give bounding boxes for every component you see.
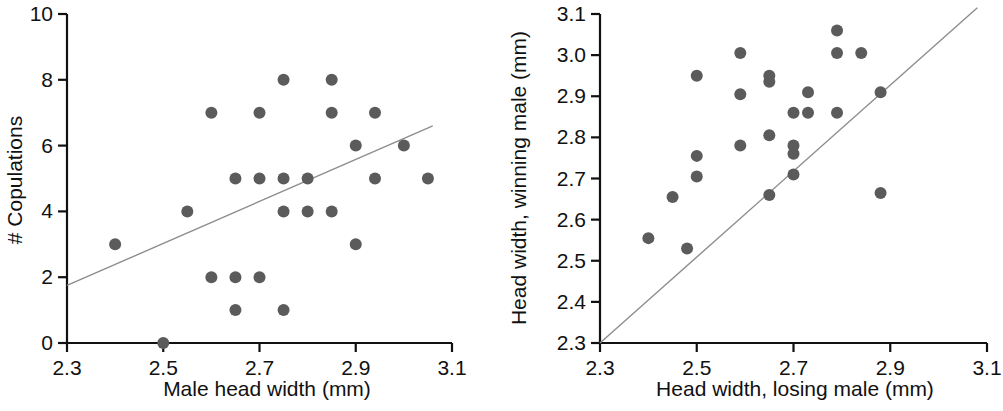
y-tick-label: 2.4 (557, 290, 587, 313)
data-point (734, 140, 746, 152)
data-point (855, 47, 867, 59)
y-tick-label: 2.5 (557, 249, 586, 272)
x-tick-label: 2.9 (341, 356, 370, 379)
data-point (831, 24, 843, 36)
data-point (157, 337, 169, 349)
data-point (875, 86, 887, 98)
scatter-panel-headwidth: 2.32.42.52.62.72.82.93.03.12.32.52.72.93… (500, 0, 1003, 411)
x-tick-label: 2.5 (682, 356, 711, 379)
right-x-axis-title: Head width, losing male (mm) (656, 377, 934, 400)
x-tick-label: 2.3 (585, 356, 614, 379)
data-point (691, 150, 703, 162)
y-tick-label: 3.0 (557, 43, 586, 66)
x-tick-label: 2.7 (245, 356, 274, 379)
right-axes (591, 14, 987, 352)
data-point (398, 140, 410, 152)
trend-line (67, 126, 433, 286)
data-point (369, 173, 381, 185)
data-point (229, 271, 241, 283)
data-point (205, 107, 217, 119)
data-point (802, 86, 814, 98)
data-point (691, 170, 703, 182)
data-point (788, 148, 800, 160)
data-point (369, 107, 381, 119)
data-point (875, 187, 887, 199)
x-tick-label: 2.3 (52, 356, 81, 379)
data-point (422, 173, 434, 185)
y-tick-label: 8 (41, 68, 53, 91)
y-tick-label: 2.6 (557, 208, 586, 231)
y-tick-label: 10 (30, 2, 53, 25)
data-point (734, 88, 746, 100)
data-point (181, 205, 193, 217)
y-tick-label: 6 (41, 134, 53, 157)
y-tick-label: 2.7 (557, 167, 586, 190)
y-tick-label: 2 (41, 265, 53, 288)
data-point (763, 189, 775, 201)
left-axes (58, 14, 452, 352)
data-point (205, 271, 217, 283)
data-point (302, 173, 314, 185)
y-tick-label: 4 (41, 199, 53, 222)
data-point (788, 168, 800, 180)
y-tick-label: 3.1 (557, 2, 586, 25)
right-data-points (642, 24, 886, 254)
left-y-axis-title: # Copulations (3, 116, 26, 244)
data-point (734, 47, 746, 59)
x-tick-label: 2.5 (149, 356, 178, 379)
data-point (691, 70, 703, 82)
data-point (802, 107, 814, 119)
data-point (831, 107, 843, 119)
y-tick-label: 2.9 (557, 84, 586, 107)
data-point (642, 232, 654, 244)
data-point (254, 107, 266, 119)
data-point (278, 304, 290, 316)
data-point (278, 205, 290, 217)
data-point (326, 107, 338, 119)
y-tick-label: 0 (41, 331, 53, 354)
data-point (254, 173, 266, 185)
left-tick-labels: 02468102.32.52.72.93.1 (30, 2, 467, 379)
scatter-panel-copulations: 02468102.32.52.72.93.1 Male head width (… (0, 0, 500, 411)
data-point (229, 173, 241, 185)
data-point (788, 107, 800, 119)
left-x-axis-title: Male head width (mm) (163, 377, 371, 400)
left-regression-line (67, 126, 433, 286)
right-plot-svg: 2.32.42.52.62.72.82.93.03.12.32.52.72.93… (500, 0, 1003, 411)
data-point (229, 304, 241, 316)
y-tick-label: 2.3 (557, 331, 586, 354)
data-point (350, 140, 362, 152)
data-point (763, 129, 775, 141)
x-tick-label: 3.1 (972, 356, 1001, 379)
figure-container: 02468102.32.52.72.93.1 Male head width (… (0, 0, 1003, 411)
data-point (350, 238, 362, 250)
data-point (278, 74, 290, 86)
data-point (763, 76, 775, 88)
data-point (681, 242, 693, 254)
data-point (326, 74, 338, 86)
data-point (667, 191, 679, 203)
x-tick-label: 2.7 (779, 356, 808, 379)
data-point (254, 271, 266, 283)
left-plot-svg: 02468102.32.52.72.93.1 Male head width (… (0, 0, 500, 411)
x-tick-label: 3.1 (437, 356, 466, 379)
data-point (326, 205, 338, 217)
left-data-points (109, 74, 434, 349)
data-point (831, 47, 843, 59)
data-point (109, 238, 121, 250)
data-point (302, 205, 314, 217)
right-y-axis-title: Head width, winning male (mm) (507, 31, 530, 325)
data-point (278, 173, 290, 185)
x-tick-label: 2.9 (876, 356, 905, 379)
y-tick-label: 2.8 (557, 125, 586, 148)
